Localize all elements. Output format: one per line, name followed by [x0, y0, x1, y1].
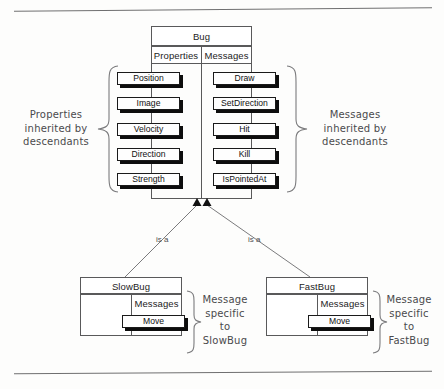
left-annotation: Properties inherited by descendants	[14, 108, 98, 149]
left-brace	[96, 64, 120, 194]
bug-messages-header: Messages	[201, 50, 252, 61]
property-button-direction[interactable]: Direction	[117, 148, 180, 161]
message-button-draw[interactable]: Draw	[213, 72, 276, 85]
isa-label-right: is a	[248, 235, 260, 244]
message-button-setdirection[interactable]: SetDirection	[213, 97, 276, 110]
fastbug-title: FastBug	[266, 281, 368, 292]
property-button-image[interactable]: Image	[117, 97, 180, 110]
message-button-kill[interactable]: Kill	[213, 148, 276, 161]
slowbug-message-button-move[interactable]: Move	[122, 315, 185, 328]
property-button-velocity[interactable]: Velocity	[117, 123, 180, 136]
property-button-strength[interactable]: Strength	[117, 173, 180, 186]
fastbug-annotation: Message specific to FastBug	[376, 293, 442, 347]
fastbug-messages-header: Messages	[317, 298, 368, 309]
isa-label-left: is a	[156, 235, 168, 244]
message-button-hit[interactable]: Hit	[213, 123, 276, 136]
message-button-ispointedat[interactable]: IsPointedAt	[213, 173, 276, 186]
class-diagram-figure: Bug Properties Messages Position Image V…	[0, 0, 444, 389]
bug-body-bottom-right	[201, 198, 252, 199]
bug-body-bottom-left	[151, 198, 201, 199]
property-button-position[interactable]: Position	[117, 72, 180, 85]
slowbug-title: SlowBug	[80, 281, 182, 292]
bug-body-center-wall	[201, 64, 202, 198]
fastbug-message-button-move[interactable]: Move	[308, 315, 371, 328]
bug-properties-header: Properties	[151, 50, 201, 61]
bug-class-title: Bug	[151, 31, 252, 42]
slowbug-messages-header: Messages	[131, 298, 182, 309]
right-annotation: Messages inherited by descendants	[312, 108, 398, 149]
right-brace	[285, 64, 309, 194]
page-rule-bottom	[14, 371, 432, 375]
slowbug-annotation: Message specific to SlowBug	[190, 293, 260, 347]
page-rule-top	[14, 7, 432, 11]
